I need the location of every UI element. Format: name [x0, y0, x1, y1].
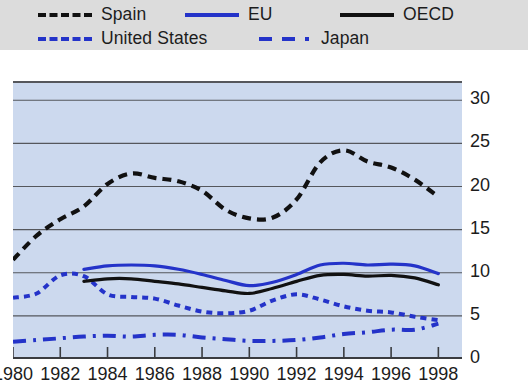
x-tick-label: 1992 [277, 363, 317, 385]
line-dotted-blue-icon [38, 32, 92, 46]
y-tick-label: 15 [470, 219, 490, 237]
legend-row-top: Spain EU OECD [0, 2, 528, 27]
legend-label-spain: Spain [101, 4, 146, 25]
chart-legend: Spain EU OECD United States [0, 0, 528, 50]
x-tick-label: 1998 [418, 363, 458, 385]
legend-item-spain: Spain [38, 2, 146, 27]
x-tick-label: 1988 [182, 363, 222, 385]
x-tick-label: 1986 [135, 363, 175, 385]
chart-canvas [13, 83, 462, 359]
x-tick-label: 1980 [0, 363, 33, 385]
series-line-japan [13, 324, 438, 342]
chart-screenshot: Spain EU OECD United States [0, 0, 528, 390]
y-axis-tick-labels: 051015202530 [470, 81, 528, 371]
x-tick-label: 1982 [40, 363, 80, 385]
legend-item-eu: EU [185, 2, 273, 27]
legend-item-united-states: United States [38, 26, 207, 51]
x-tick-label: 1984 [87, 363, 127, 385]
chart-plot-region: 051015202530 198019821984198619881990199… [0, 50, 528, 390]
y-tick-label: 5 [470, 305, 480, 323]
legend-label-united-states: United States [101, 28, 207, 49]
legend-item-japan: Japan [258, 26, 369, 51]
series-line-spain [13, 150, 438, 260]
legend-item-oecd: OECD [340, 2, 454, 27]
x-tick-label: 1996 [371, 363, 411, 385]
line-solid-blue-icon [185, 8, 239, 22]
legend-row-bottom: United States Japan [0, 26, 528, 51]
plot-area [13, 81, 462, 357]
x-tick-label: 1990 [229, 363, 269, 385]
y-tick-label: 25 [470, 132, 490, 150]
y-tick-label: 20 [470, 176, 490, 194]
legend-label-eu: EU [248, 4, 273, 25]
line-dashdot-blue-icon [258, 32, 312, 46]
x-tick-label: 1994 [324, 363, 364, 385]
line-dashed-black-icon [38, 8, 92, 22]
x-axis-tick-labels: 1980198219841986198819901992199419961998 [0, 363, 528, 390]
legend-label-oecd: OECD [403, 4, 454, 25]
x-axis-line [13, 357, 462, 359]
y-tick-label: 30 [470, 89, 490, 107]
legend-label-japan: Japan [321, 28, 369, 49]
y-tick-label: 10 [470, 262, 490, 280]
line-solid-black-icon [340, 8, 394, 22]
